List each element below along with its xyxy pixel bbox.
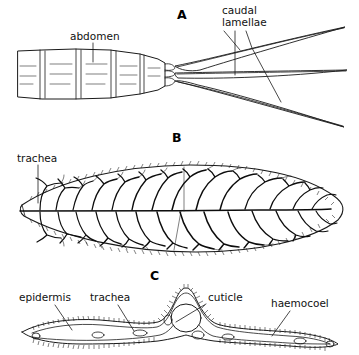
panel-letter-c: C bbox=[150, 268, 159, 283]
section-trachea-oval bbox=[171, 304, 201, 332]
label-trachea-c: trachea bbox=[90, 291, 130, 303]
panel-letter-b: B bbox=[172, 130, 182, 145]
label-trachea-b: trachea bbox=[17, 152, 57, 164]
label-cuticle: cuticle bbox=[208, 291, 243, 303]
panel-letter-a: A bbox=[177, 7, 187, 22]
label-caudal-lamellae-line1: caudal bbox=[222, 4, 257, 16]
label-abdomen: abdomen bbox=[70, 30, 120, 42]
label-epidermis: epidermis bbox=[19, 291, 71, 303]
figure-root: A abdomen caudal lamellae B bbox=[0, 0, 359, 355]
biology-figure-svg: A abdomen caudal lamellae B bbox=[0, 0, 359, 355]
label-caudal-lamellae-line2: lamellae bbox=[222, 16, 267, 28]
label-haemocoel: haemocoel bbox=[271, 297, 329, 309]
